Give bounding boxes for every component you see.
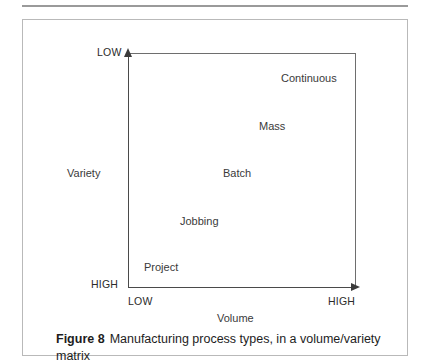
- data-label-project: Project: [144, 261, 178, 273]
- y-axis-low-label: LOW: [97, 46, 122, 58]
- figure-caption-number: Figure 8: [56, 332, 105, 346]
- x-axis-high-label: HIGH: [328, 295, 355, 307]
- y-axis-arrowhead-icon: [124, 48, 132, 57]
- figure-page: LOW HIGH LOW HIGH Variety Volume Continu…: [0, 0, 432, 364]
- figure-caption: Figure 8Manufacturing process types, in …: [56, 331, 401, 364]
- y-axis-line: [128, 53, 129, 288]
- x-axis-title: Volume: [217, 312, 254, 324]
- data-label-mass: Mass: [259, 120, 285, 132]
- data-label-continuous: Continuous: [281, 72, 337, 84]
- y-axis-high-label: HIGH: [91, 278, 118, 290]
- x-axis-line: [128, 287, 356, 288]
- figure-container: LOW HIGH LOW HIGH Variety Volume Continu…: [22, 19, 408, 356]
- x-axis-low-label: LOW: [128, 295, 153, 307]
- y-axis-title: Variety: [67, 167, 100, 179]
- x-axis-arrowhead-icon: [351, 283, 360, 291]
- data-label-jobbing: Jobbing: [180, 215, 219, 227]
- top-divider-rule: [22, 5, 408, 7]
- data-label-batch: Batch: [223, 167, 251, 179]
